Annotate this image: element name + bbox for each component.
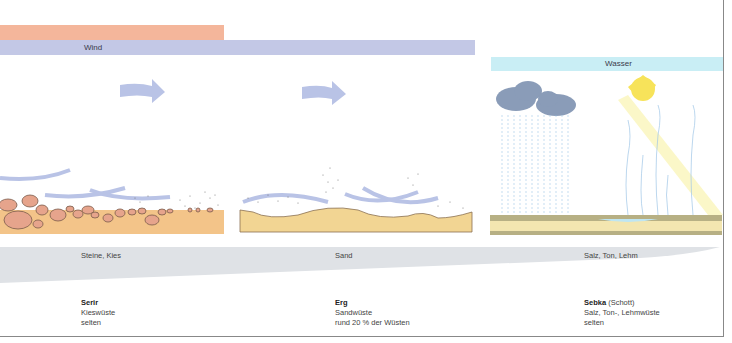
desert-type: Sandwüste bbox=[335, 308, 410, 318]
sun-rays bbox=[618, 95, 723, 215]
wind-label: Wind bbox=[84, 43, 102, 52]
desert-frequency: rund 20 % der Wüsten bbox=[335, 318, 410, 328]
cloud-icon bbox=[496, 81, 576, 116]
wind-arrow-icon bbox=[302, 81, 346, 105]
desert-name: Sebka bbox=[584, 298, 606, 307]
desert-sebka: Sebka (Schott) Salz, Ton-, Lehmwüste sel… bbox=[584, 298, 660, 328]
desert-type: Salz, Ton-, Lehmwüste bbox=[584, 308, 660, 318]
sebka-illustration bbox=[488, 75, 726, 240]
material-label-sand: Sand bbox=[335, 251, 353, 261]
desert-frequency: selten bbox=[81, 318, 115, 328]
wind-arrow-icon bbox=[120, 79, 165, 103]
desert-type: Kieswüste bbox=[81, 308, 115, 318]
desert-name: Serir bbox=[81, 298, 98, 307]
desert-name: Erg bbox=[335, 298, 348, 307]
water-bar: Wasser bbox=[491, 57, 723, 71]
wind-bar: Wind bbox=[0, 40, 475, 55]
desert-erg: Erg Sandwüste rund 20 % der Wüsten bbox=[335, 298, 410, 328]
water-label: Wasser bbox=[605, 59, 632, 68]
serir-illustration bbox=[0, 70, 232, 240]
erg-illustration bbox=[238, 70, 478, 240]
frame-bottom-line bbox=[0, 336, 724, 337]
sun-icon bbox=[628, 75, 656, 101]
material-label-stones: Steine, Kies bbox=[81, 251, 121, 261]
desert-frequency: selten bbox=[584, 318, 660, 328]
heat-bar bbox=[0, 25, 224, 40]
desert-alt-name: (Schott) bbox=[608, 298, 634, 307]
material-label-salt: Salz, Ton, Lehm bbox=[584, 251, 638, 261]
desert-serir: Serir Kieswüste selten bbox=[81, 298, 115, 328]
